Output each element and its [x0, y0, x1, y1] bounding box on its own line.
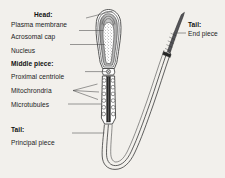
label-nucleus: Nucleus: [11, 47, 35, 54]
tail-heading-left: Tail:: [11, 126, 24, 133]
label-acrosomal-cap: Acrosomal cap: [11, 33, 55, 40]
leader-mitochondria-branch: [73, 84, 99, 100]
label-mitochondria: Mitochrondria: [11, 87, 52, 94]
label-end-piece: End piece: [188, 30, 218, 37]
leader-lines-group: [68, 11, 186, 133]
tail-end-piece-group: [163, 12, 185, 57]
middle-piece-heading: Middle piece:: [11, 60, 53, 67]
middle-piece-group: [101, 76, 115, 124]
principal-piece-center-fiber: [111, 50, 164, 162]
head-heading: Head:: [34, 11, 53, 18]
label-microtubules: Microtubules: [11, 101, 49, 108]
sperm-head-group: [96, 10, 121, 69]
label-plasma-membrane: Plasma membrane: [11, 21, 67, 28]
label-principal-piece: Principal piece: [11, 139, 55, 146]
label-proximal-centriole: Proximal centriole: [11, 73, 64, 80]
tail-heading-right: Tail:: [188, 21, 201, 28]
sperm-anatomy-diagram: Head: Plasma membrane Acrosomal cap Nucl…: [0, 0, 225, 178]
